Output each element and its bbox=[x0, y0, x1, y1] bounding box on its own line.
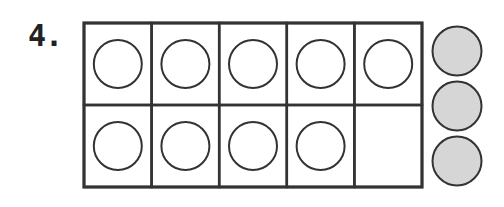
counter-circle-icon bbox=[364, 40, 412, 88]
counter-circle-icon bbox=[229, 122, 277, 170]
counter-circle-icon bbox=[297, 122, 345, 170]
counter-circle-icon bbox=[297, 40, 345, 88]
counter-circle-icon bbox=[229, 40, 277, 88]
extra-counter-icon bbox=[433, 27, 482, 76]
extra-counter-icon bbox=[433, 82, 482, 131]
counter-circle-icon bbox=[161, 122, 209, 170]
ten-frame-figure bbox=[0, 0, 504, 207]
counter-circle-icon bbox=[94, 40, 142, 88]
extra-counter-icon bbox=[433, 137, 482, 186]
ten-frame-cell bbox=[354, 105, 422, 187]
counter-circle-icon bbox=[161, 40, 209, 88]
counter-circle-icon bbox=[94, 122, 142, 170]
